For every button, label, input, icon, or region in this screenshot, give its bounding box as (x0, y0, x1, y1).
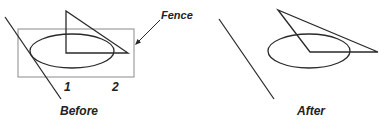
triangle-after (278, 10, 378, 52)
ellipse-before (30, 34, 114, 68)
triangle-before (66, 11, 128, 53)
after-panel (219, 10, 378, 99)
cutting-line-after (219, 19, 274, 99)
fence-arrow-line (137, 20, 160, 43)
after-caption: After (297, 104, 325, 118)
before-panel (5, 11, 160, 99)
before-caption: Before (60, 104, 98, 118)
pick-point-label-1: 1 (64, 80, 71, 94)
fence-label: Fence (161, 9, 193, 21)
pick-point-label-2: 2 (112, 80, 119, 94)
